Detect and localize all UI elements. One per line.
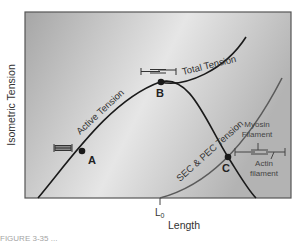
x-axis-label: Length <box>168 219 200 231</box>
point-a-label: A <box>88 154 96 166</box>
figure-caption-text: FIGURE 3-35 ... <box>0 236 303 242</box>
l0-label: L0 <box>155 207 165 219</box>
y-axis-label: Isometric Tension <box>5 55 19 155</box>
myosin-label: Myosin <box>244 120 269 129</box>
length-tension-diagram: A B C Active Tension Total Tension SEC &… <box>0 0 303 242</box>
figure-caption: FIGURE 3-35 ... <box>0 236 303 242</box>
point-b-label: B <box>156 87 164 99</box>
actin-label-2: filament <box>250 169 279 178</box>
point-c-label: C <box>222 162 230 174</box>
point-c-marker <box>225 154 232 161</box>
sarcomere-icon-short <box>54 144 72 152</box>
actin-label: Actin <box>255 159 273 168</box>
point-b-marker <box>158 79 165 86</box>
myosin-label-2: Filament <box>242 130 273 139</box>
point-a-marker <box>79 148 86 155</box>
